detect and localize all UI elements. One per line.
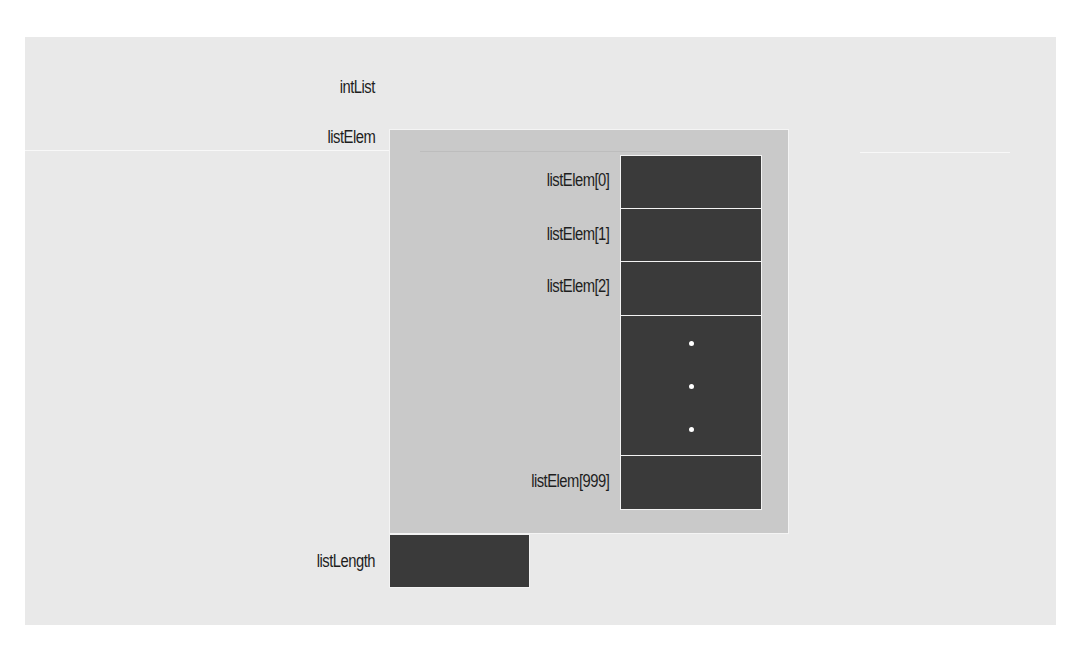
variable-label-intlist: intList [340,77,375,98]
member-label-listelem: listElem [327,127,375,148]
listlength-cell [389,534,530,588]
array-element-label: listElem[999] [531,471,609,492]
member-label-listlength: listLength [317,551,375,572]
array-cell-999 [620,455,762,510]
divider-line-right [860,152,1010,153]
ellipsis-dot-icon [689,427,694,432]
array-cell-0 [620,155,762,209]
array-element-label: listElem[0] [546,170,609,191]
array-cell-2 [620,261,762,316]
ellipsis-dot-icon [689,341,694,346]
array-element-label: listElem[2] [546,276,609,297]
array-cell-ellipsis [620,315,762,456]
array-cell-1 [620,208,762,262]
divider-line-left [25,150,390,151]
array-element-label: listElem[1] [546,224,609,245]
struct-inner-line [420,151,660,152]
ellipsis-dot-icon [689,384,694,389]
